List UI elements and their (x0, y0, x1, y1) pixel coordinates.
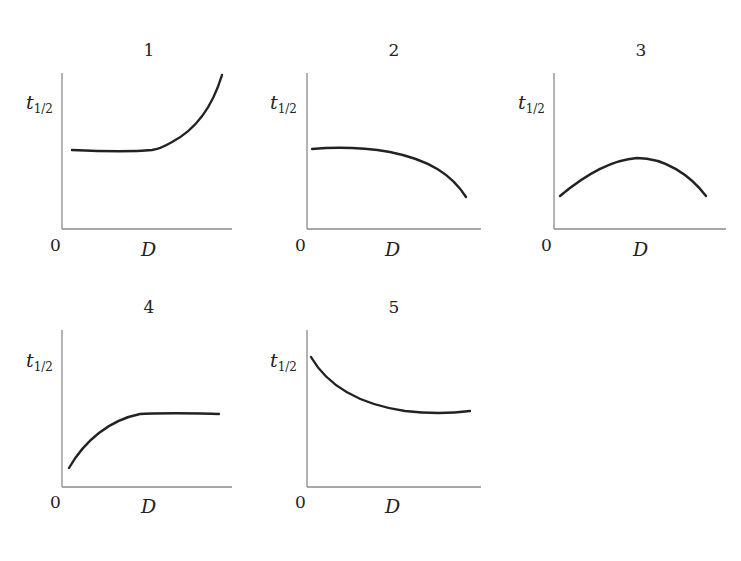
origin-label: 0 (295, 235, 306, 255)
panel-4: 4 t1/2 0 D (26, 297, 232, 517)
origin-label: 0 (50, 492, 61, 512)
figure-canvas: 1 t1/2 0 D 2 t1/2 0 D 3 t1/2 0 D 4 t1/2 … (0, 0, 741, 561)
data-curve (560, 158, 706, 196)
y-axis-label: t1/2 (26, 91, 53, 116)
y-axis-label: t1/2 (518, 91, 545, 116)
data-curve (312, 148, 466, 197)
x-axis-label: D (632, 238, 648, 260)
x-axis-label: D (384, 495, 400, 517)
panel-1: 1 t1/2 0 D (26, 40, 232, 260)
panel-title: 1 (144, 40, 155, 60)
panel-title: 5 (389, 297, 400, 317)
data-curve (69, 413, 219, 468)
y-axis-label: t1/2 (26, 349, 53, 374)
panel-5: 5 t1/2 0 D (270, 297, 481, 517)
data-curve (72, 75, 222, 151)
y-axis-label: t1/2 (270, 349, 297, 374)
panel-2: 2 t1/2 0 D (270, 40, 481, 260)
panel-3: 3 t1/2 0 D (518, 40, 726, 260)
data-curve (311, 357, 470, 413)
origin-label: 0 (541, 235, 552, 255)
x-axis-label: D (140, 495, 156, 517)
origin-label: 0 (295, 492, 306, 512)
y-axis-label: t1/2 (270, 91, 297, 116)
panel-title: 3 (636, 40, 647, 60)
origin-label: 0 (50, 235, 61, 255)
x-axis-label: D (384, 238, 400, 260)
x-axis-label: D (140, 238, 156, 260)
panel-title: 4 (144, 297, 155, 317)
panel-title: 2 (389, 40, 400, 60)
